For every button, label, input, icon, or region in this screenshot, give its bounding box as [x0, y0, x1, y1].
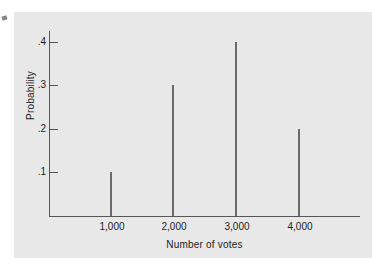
plot-area: .4 .3 .2 .1 1,000 2,000 3,000 4,000 Numb…: [14, 12, 372, 258]
chart-figure-panel: .4 .3 .2 .1 1,000 2,000 3,000 4,000 Numb…: [14, 12, 372, 258]
y-axis-tick-label-3: .3: [38, 80, 46, 90]
x-axis-title: Number of votes: [49, 239, 360, 250]
x-axis-tick-label-2000: 2,000: [161, 222, 186, 232]
y-axis-tick-1: [50, 172, 58, 173]
x-axis-tick-label-4000: 4,000: [287, 222, 312, 232]
y-axis-tick-2: [50, 129, 58, 130]
data-stem-3000: [235, 42, 237, 216]
y-axis-tick-4: [50, 42, 58, 43]
data-stem-1000: [110, 172, 112, 216]
y-axis-tick-label-4: .4: [38, 37, 46, 47]
y-axis-line: [49, 31, 50, 217]
x-axis-tick-label-3000: 3,000: [224, 222, 249, 232]
y-axis-tick-label-2: .2: [38, 124, 46, 134]
scan-artifact-speck: [2, 15, 8, 20]
data-stem-2000: [172, 85, 174, 216]
y-axis-tick-3: [50, 85, 58, 86]
y-axis-tick-label-1: .1: [38, 167, 46, 177]
y-axis-title: Probability: [25, 50, 36, 142]
x-axis-line: [49, 216, 360, 217]
data-stem-4000: [298, 129, 300, 216]
x-axis-tick-label-1000: 1,000: [99, 222, 124, 232]
